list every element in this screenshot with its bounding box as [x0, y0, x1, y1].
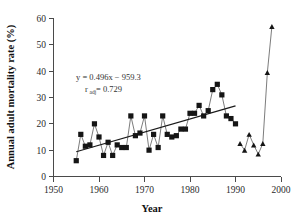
data-point-square: [228, 116, 233, 121]
data-point-square: [169, 134, 174, 139]
mortality-rate-scatter-chart: 60 50 40 30 20 10 0 1950 1960 1970 1980 …: [0, 0, 305, 219]
y-tick-label-30: 30: [37, 93, 47, 103]
data-point-square: [183, 127, 188, 132]
data-point-square: [197, 103, 202, 108]
data-point-square: [178, 127, 183, 132]
x-tick-label-1970: 1970: [135, 185, 154, 195]
x-tick-label-2000: 2000: [272, 185, 291, 195]
y-tick-label-60: 60: [37, 14, 47, 24]
data-point-square: [201, 113, 206, 118]
data-point-square: [74, 158, 79, 163]
data-point-square: [137, 130, 142, 135]
x-axis-title: Year: [142, 203, 163, 214]
data-point-square: [233, 121, 238, 126]
chart-figure: 60 50 40 30 20 10 0 1950 1960 1970 1980 …: [0, 0, 305, 219]
data-point-square: [87, 142, 92, 147]
data-point-square: [115, 142, 120, 147]
data-point-square: [206, 108, 211, 113]
y-tick-label-0: 0: [41, 172, 46, 182]
x-tick-label-1990: 1990: [226, 185, 245, 195]
data-point-square: [146, 148, 151, 153]
x-tick-label-1960: 1960: [90, 185, 109, 195]
data-point-square: [219, 92, 224, 97]
data-point-square: [192, 111, 197, 116]
data-point-square: [160, 113, 165, 118]
x-tick-label-1950: 1950: [44, 185, 63, 195]
data-point-square: [106, 140, 111, 145]
x-tick-label-1980: 1980: [181, 185, 200, 195]
data-point-square: [83, 144, 88, 149]
y-tick-label-10: 10: [37, 146, 47, 156]
r-symbol: r: [85, 84, 88, 94]
data-point-square: [96, 134, 101, 139]
data-point-square: [78, 132, 83, 137]
data-point-square: [119, 145, 124, 150]
data-point-square: [128, 113, 133, 118]
data-point-square: [224, 113, 229, 118]
y-tick-label-40: 40: [37, 67, 47, 77]
data-point-square: [101, 153, 106, 158]
data-point-square: [142, 113, 147, 118]
data-point-square: [133, 133, 138, 138]
data-point-square: [210, 87, 215, 92]
regression-equation: y = 0.496x − 959.3: [76, 72, 141, 82]
data-point-square: [174, 133, 179, 138]
y-tick-label-20: 20: [37, 119, 47, 129]
data-point-square: [156, 145, 161, 150]
data-point-square: [124, 145, 129, 150]
r-value: = 0.729: [96, 84, 122, 94]
data-point-square: [110, 153, 115, 158]
data-point-square: [92, 121, 97, 126]
y-tick-label-50: 50: [37, 40, 47, 50]
data-point-square: [215, 82, 220, 87]
data-point-square: [165, 132, 170, 137]
data-point-square: [187, 111, 192, 116]
data-point-square: [151, 132, 156, 137]
y-axis-title: Annual adult mortality rate (%): [5, 24, 17, 169]
